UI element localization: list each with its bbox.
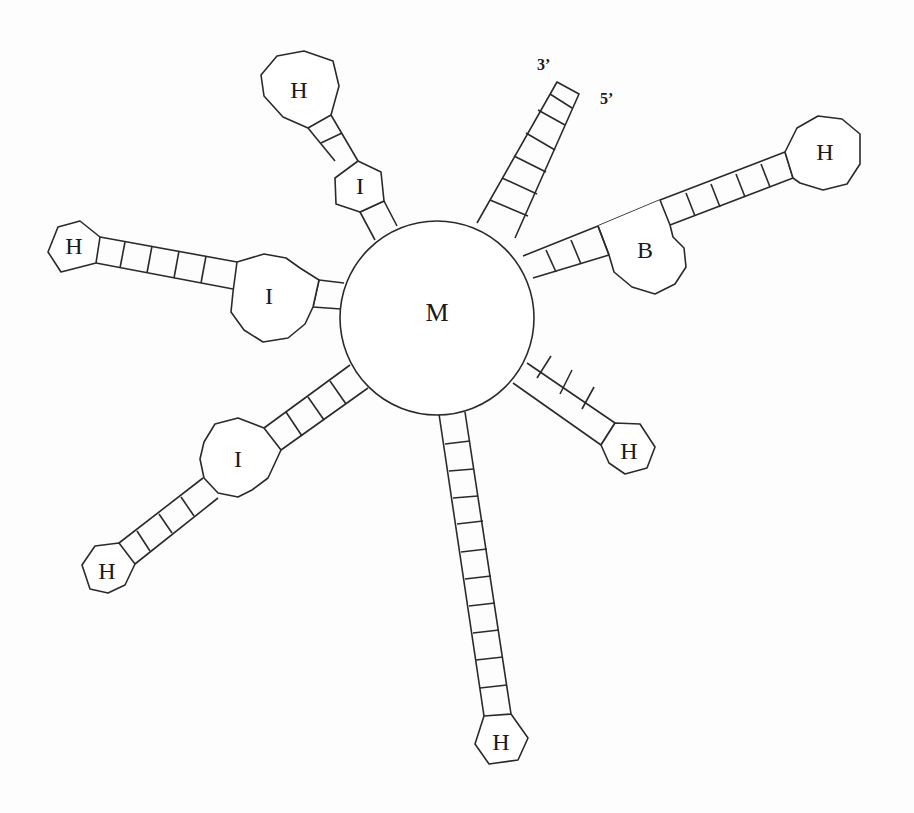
hairpin-label: H	[290, 77, 307, 103]
internal-loop-label: I	[356, 173, 364, 199]
branch-bottom	[439, 412, 528, 764]
hairpin-label: H	[65, 233, 82, 259]
hairpin-label: H	[620, 438, 637, 464]
internal-loop	[231, 254, 319, 342]
rna-structure-diagram: 3’ 5’ B H H	[0, 0, 914, 813]
internal-loop-label: I	[234, 446, 242, 472]
five-prime-label: 5’	[600, 90, 613, 107]
branch-upper-left	[261, 51, 397, 240]
three-prime-label: 3’	[537, 56, 550, 73]
branch-left	[48, 221, 344, 342]
internal-loop-label: I	[265, 283, 273, 309]
multiloop-label: M	[425, 298, 448, 327]
hairpin-label: H	[98, 558, 115, 584]
hairpin-label: H	[492, 729, 509, 755]
hairpin-label: H	[816, 139, 833, 165]
bulge-label: B	[637, 237, 653, 263]
exterior-stem	[477, 82, 579, 238]
branch-upper-right	[523, 116, 860, 294]
branch-lower-left	[82, 365, 368, 593]
